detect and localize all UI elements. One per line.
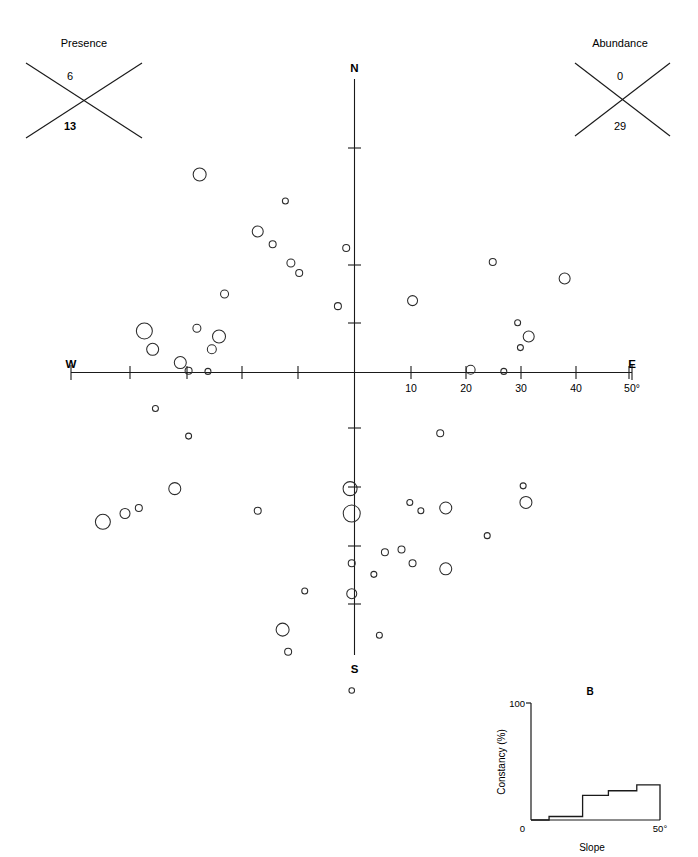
scatter-bubble [520,496,532,508]
inset-y-axis-title: Constancy (%) [496,729,507,795]
scatter-bubble [174,357,186,369]
inset-panel-label: B [586,686,593,697]
figure-canvas: Presence 6 13 Abundance 0 29 [0,0,698,857]
scatter-bubble [515,320,521,326]
scatter-bubble [282,198,288,204]
scatter-bubble [254,507,261,514]
scatter-bubble [252,226,263,237]
scatter-bubble [381,549,388,556]
scatter-bubble [302,588,308,594]
scatter-bubble [207,345,216,354]
scatter-bubble [193,324,201,332]
cardinal-label-east: E [628,358,636,370]
scatter-bubble [296,269,303,276]
scatter-bubble [343,245,350,252]
scatter-bubble [484,533,490,539]
figure-root: Presence 6 13 Abundance 0 29 [0,0,698,857]
inset-y-max-label: 100 [509,698,525,709]
scatter-bubble [440,502,452,514]
compass-axes: 10 20 30 40 50° N S W E [66,62,640,675]
scatter-bubble [95,514,110,529]
scatter-bubble [285,648,292,655]
scatter-bubble [407,499,413,505]
east-tick-label-50: 50° [624,382,640,394]
east-tick-label-40: 40 [570,382,582,394]
scatter-bubble [523,331,534,342]
scatter-bubble [501,368,507,374]
scatter-bubble [287,259,295,267]
presence-legend: Presence 6 13 [26,37,142,138]
presence-legend-bottom-value: 13 [64,120,76,132]
scatter-bubble [517,345,523,351]
bubble-layer [95,168,570,693]
scatter-bubble [213,330,226,343]
abundance-legend-top-value: 0 [617,70,623,82]
scatter-bubble [276,623,289,636]
inset-x-axis-title: Slope [579,842,605,853]
abundance-legend-bottom-value: 29 [614,120,626,132]
east-tick-label-10: 10 [405,382,417,394]
scatter-bubble [376,632,382,638]
scatter-bubble [520,483,526,489]
scatter-bubble [559,273,570,284]
inset-y-min-label: 0 [520,823,525,834]
scatter-bubble [349,688,355,694]
scatter-bubble [334,303,341,310]
scatter-bubble [221,290,229,298]
scatter-bubble [193,168,206,181]
east-tick-label-20: 20 [460,382,472,394]
scatter-bubble [120,509,130,519]
scatter-bubble [489,258,496,265]
abundance-legend-title: Abundance [592,37,648,49]
cardinal-label-south: S [351,663,359,675]
scatter-bubble [408,296,418,306]
scatter-bubble [147,343,159,355]
scatter-bubble [205,368,211,374]
scatter-bubble [269,241,276,248]
scatter-bubble [347,589,357,599]
scatter-bubble [409,560,416,567]
scatter-bubble [136,323,152,339]
cardinal-label-west: W [66,358,77,370]
scatter-bubble [418,508,424,514]
scatter-bubble [398,546,405,553]
presence-legend-title: Presence [61,37,107,49]
inset-step-histogram [531,785,660,820]
scatter-bubble [185,367,192,374]
presence-legend-top-value: 6 [67,70,73,82]
scatter-bubble [152,405,158,411]
scatter-bubble [169,483,181,495]
scatter-bubble [186,433,192,439]
scatter-bubble [343,505,360,522]
abundance-legend: Abundance 0 29 [575,37,670,136]
scatter-bubble [440,563,452,575]
scatter-bubble [437,430,444,437]
scatter-bubble [371,571,377,577]
inset-x-max-label: 50° [653,823,668,834]
east-tick-label-30: 30 [515,382,527,394]
constancy-slope-inset: B 100 0 50° Constancy (%) Slope [496,686,667,853]
cardinal-label-north: N [350,62,358,74]
scatter-bubble [135,504,142,511]
